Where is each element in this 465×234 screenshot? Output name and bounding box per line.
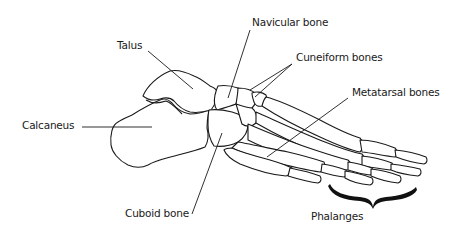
cuneiform-leader-2: [255, 64, 292, 97]
phalanges-brace: [328, 184, 417, 209]
label-metatarsal-bones: Metatarsal bones: [352, 87, 440, 98]
label-navicular-bone: Navicular bone: [252, 17, 328, 28]
navicular-bone: [214, 86, 238, 110]
label-calcaneus: Calcaneus: [22, 120, 74, 131]
label-cuneiform-bones: Cuneiform bones: [296, 52, 383, 63]
phalanx-1a: [360, 140, 397, 157]
label-cuboid-bone: Cuboid bone: [125, 208, 189, 219]
phalanx-1b: [395, 150, 427, 164]
label-phalanges: Phalanges: [311, 211, 363, 222]
foot-bones-diagram: Talus Navicular bone Cuneiform bones Met…: [0, 0, 465, 234]
foot-skeleton-drawing: [0, 0, 465, 234]
cuneiform-leader-1: [250, 64, 292, 90]
label-talus: Talus: [117, 40, 142, 51]
